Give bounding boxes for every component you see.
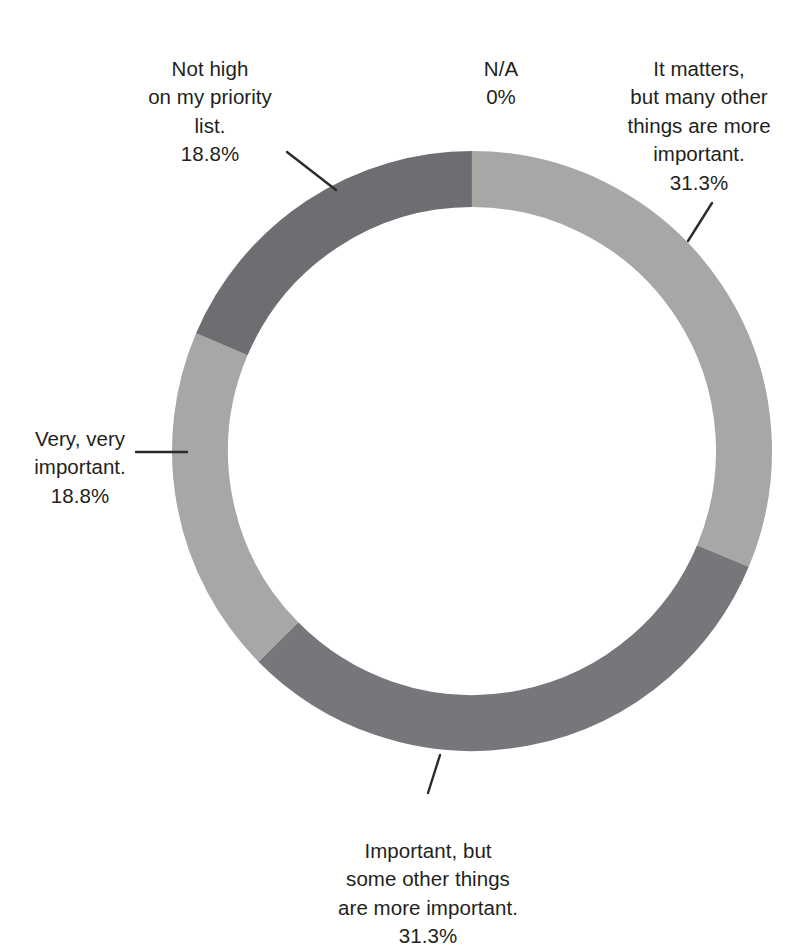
donut-segments <box>200 179 744 723</box>
segment-it-matters[interactable] <box>472 179 744 556</box>
label-important-but: Important, but some other things are mor… <box>282 808 574 947</box>
label-not-high-priority: Not high on my priority list. 18.8% <box>70 26 350 197</box>
label-na: N/A 0% <box>408 26 594 140</box>
segment-very-very-important[interactable] <box>200 344 278 642</box>
leader-line-important-but <box>428 755 440 793</box>
segment-important-but[interactable] <box>278 556 723 723</box>
label-not-high-priority-text: Not high on my priority list. <box>148 57 272 137</box>
label-important-but-percent: 31.3% <box>282 922 574 947</box>
label-na-percent: 0% <box>408 83 594 112</box>
label-not-high-priority-percent: 18.8% <box>70 140 350 169</box>
segment-not-high-priority[interactable] <box>222 179 472 344</box>
label-very-very-important: Very, very important. 18.8% <box>0 396 164 539</box>
label-it-matters-text: It matters, but many other things are mo… <box>627 57 770 166</box>
label-very-very-important-text: Very, very important. <box>34 427 126 479</box>
label-na-text: N/A <box>484 57 518 80</box>
label-important-but-text: Important, but some other things are mor… <box>338 839 518 919</box>
label-it-matters-percent: 31.3% <box>592 169 806 198</box>
label-it-matters: It matters, but many other things are mo… <box>592 26 806 226</box>
label-very-very-important-percent: 18.8% <box>0 482 164 511</box>
